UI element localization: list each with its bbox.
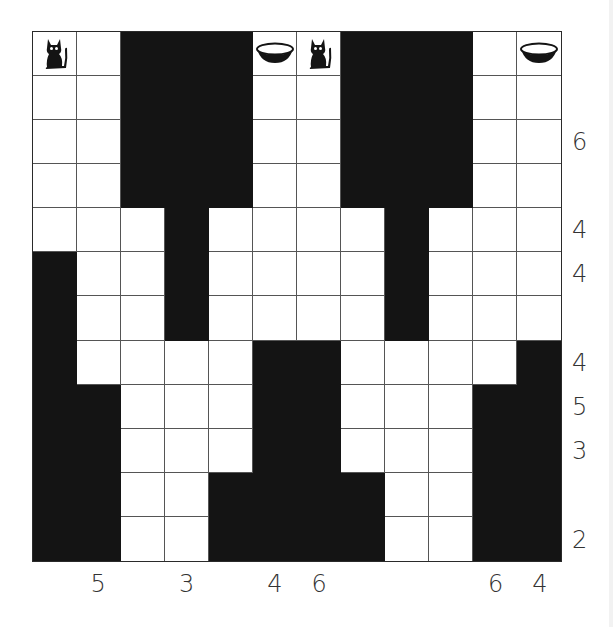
grid-cell-black[interactable] [253,385,297,429]
grid-cell-black[interactable] [121,32,165,76]
grid-cell-white[interactable] [121,296,165,340]
grid-cell-white[interactable] [385,429,429,473]
grid-cell-white[interactable] [429,296,473,340]
grid-cell-black[interactable] [165,164,209,208]
grid-cell-white[interactable] [385,341,429,385]
grid-cell-white[interactable] [429,341,473,385]
grid-cell-black[interactable] [341,517,385,561]
grid-cell-black[interactable] [165,296,209,340]
grid-cell-black[interactable] [297,517,341,561]
grid-cell-white[interactable] [517,120,561,164]
grid-cell-white[interactable] [77,76,121,120]
grid-cell-white[interactable] [297,296,341,340]
grid-cell-black[interactable] [473,385,517,429]
grid-cell-white[interactable] [77,120,121,164]
grid-cell-black[interactable] [209,517,253,561]
grid-cell-black[interactable] [33,429,77,473]
grid-cell-black[interactable] [473,473,517,517]
grid-cell-black[interactable] [121,120,165,164]
grid-cell-black[interactable] [385,252,429,296]
grid-cell-black[interactable] [165,208,209,252]
grid-cell-white[interactable] [341,341,385,385]
grid-cell-black[interactable] [429,164,473,208]
grid-cell-black[interactable] [33,473,77,517]
grid-cell-white[interactable] [209,208,253,252]
grid-cell-white[interactable] [385,385,429,429]
grid-cell-white[interactable] [77,208,121,252]
grid-cell-black[interactable] [385,296,429,340]
grid-cell-white[interactable] [209,252,253,296]
grid-cell-black[interactable] [429,76,473,120]
grid-cell-white[interactable] [253,76,297,120]
grid-cell-white[interactable] [209,296,253,340]
grid-cell-white[interactable] [121,473,165,517]
grid-cell-white[interactable] [165,517,209,561]
grid-cell-black[interactable] [165,76,209,120]
grid-cell-black[interactable] [297,341,341,385]
grid-cell-black[interactable] [517,517,561,561]
grid-cell-white[interactable] [209,429,253,473]
grid-cell-black[interactable] [77,517,121,561]
grid-cell-white[interactable] [517,296,561,340]
grid-cell-white[interactable] [473,208,517,252]
grid-cell-white[interactable] [473,296,517,340]
grid-cell-black[interactable] [33,385,77,429]
grid-cell-black[interactable] [517,341,561,385]
grid-cell-black[interactable] [297,473,341,517]
grid-cell-white[interactable] [33,208,77,252]
grid-cell-white[interactable] [517,76,561,120]
grid-cell-white[interactable] [121,252,165,296]
grid-cell-white[interactable] [253,32,297,76]
grid-cell-white[interactable] [429,517,473,561]
grid-cell-black[interactable] [33,296,77,340]
grid-cell-white[interactable] [429,385,473,429]
grid-cell-black[interactable] [209,120,253,164]
grid-cell-white[interactable] [77,252,121,296]
grid-cell-white[interactable] [121,208,165,252]
grid-cell-white[interactable] [77,296,121,340]
grid-cell-black[interactable] [341,473,385,517]
grid-cell-black[interactable] [209,473,253,517]
grid-cell-black[interactable] [121,76,165,120]
grid-cell-white[interactable] [121,429,165,473]
grid-cell-black[interactable] [121,164,165,208]
grid-cell-black[interactable] [165,120,209,164]
grid-cell-white[interactable] [165,429,209,473]
grid-cell-white[interactable] [253,120,297,164]
grid-cell-white[interactable] [385,473,429,517]
grid-cell-white[interactable] [341,385,385,429]
grid-cell-white[interactable] [165,473,209,517]
grid-cell-white[interactable] [121,341,165,385]
grid-cell-white[interactable] [429,208,473,252]
grid-cell-white[interactable] [253,208,297,252]
grid-cell-white[interactable] [121,385,165,429]
grid-cell-black[interactable] [385,76,429,120]
grid-cell-white[interactable] [297,32,341,76]
grid-cell-black[interactable] [77,385,121,429]
grid-cell-black[interactable] [517,429,561,473]
grid-cell-white[interactable] [297,76,341,120]
grid-cell-white[interactable] [253,296,297,340]
grid-cell-white[interactable] [77,164,121,208]
grid-cell-black[interactable] [297,429,341,473]
grid-cell-black[interactable] [165,32,209,76]
grid-cell-black[interactable] [341,32,385,76]
grid-cell-white[interactable] [385,517,429,561]
grid-cell-white[interactable] [473,120,517,164]
grid-cell-black[interactable] [33,252,77,296]
grid-cell-white[interactable] [429,473,473,517]
grid-cell-black[interactable] [209,32,253,76]
grid-cell-white[interactable] [165,341,209,385]
grid-cell-white[interactable] [297,252,341,296]
grid-cell-white[interactable] [297,208,341,252]
grid-cell-black[interactable] [517,385,561,429]
grid-cell-black[interactable] [341,76,385,120]
grid-cell-white[interactable] [297,164,341,208]
grid-cell-white[interactable] [517,208,561,252]
grid-cell-black[interactable] [473,517,517,561]
grid-cell-white[interactable] [473,32,517,76]
grid-cell-white[interactable] [209,341,253,385]
grid-cell-black[interactable] [33,341,77,385]
grid-cell-black[interactable] [517,473,561,517]
grid-cell-white[interactable] [429,429,473,473]
